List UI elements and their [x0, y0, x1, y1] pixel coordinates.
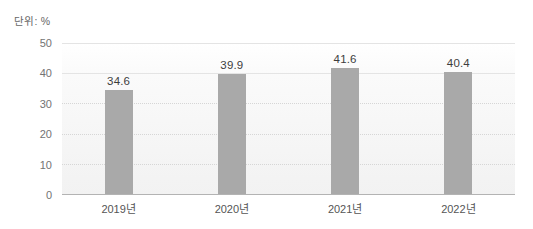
y-axis-tick-label: 10	[2, 159, 52, 171]
bar-value-label: 41.6	[334, 53, 357, 65]
bar-group-2019: 34.6	[62, 43, 175, 194]
bar-group-2022: 40.4	[402, 43, 515, 194]
bar-value-label: 39.9	[220, 59, 243, 71]
bar-2020	[218, 74, 246, 194]
x-axis: 2019년 2020년 2021년 2022년	[62, 200, 515, 216]
bar-2019	[105, 90, 133, 194]
bar-group-2021: 41.6	[289, 43, 402, 194]
x-axis-tick-label: 2021년	[289, 200, 402, 216]
y-axis: 50 40 30 20 10 0	[0, 43, 56, 195]
y-axis-tick-label: 30	[2, 98, 52, 110]
x-axis-tick-label: 2022년	[402, 200, 515, 216]
bar-value-label: 40.4	[447, 57, 470, 69]
plot-area: 34.6 39.9 41.6 40.4	[62, 43, 515, 195]
x-axis-tick-label: 2020년	[175, 200, 288, 216]
bars-container: 34.6 39.9 41.6 40.4	[62, 43, 515, 194]
y-axis-tick-label: 0	[2, 189, 52, 201]
bar-2022	[444, 72, 472, 194]
y-axis-tick-label: 20	[2, 128, 52, 140]
bar-value-label: 34.6	[107, 75, 130, 87]
unit-label: 단위: %	[14, 13, 50, 28]
y-axis-tick-label: 40	[2, 67, 52, 79]
bar-group-2020: 39.9	[175, 43, 288, 194]
x-axis-tick-label: 2019년	[62, 200, 175, 216]
bar-2021	[331, 68, 359, 194]
bar-chart: 단위: % 50 40 30 20 10 0 34.6 39.9 41.6	[0, 0, 533, 229]
y-axis-tick-label: 50	[2, 37, 52, 49]
